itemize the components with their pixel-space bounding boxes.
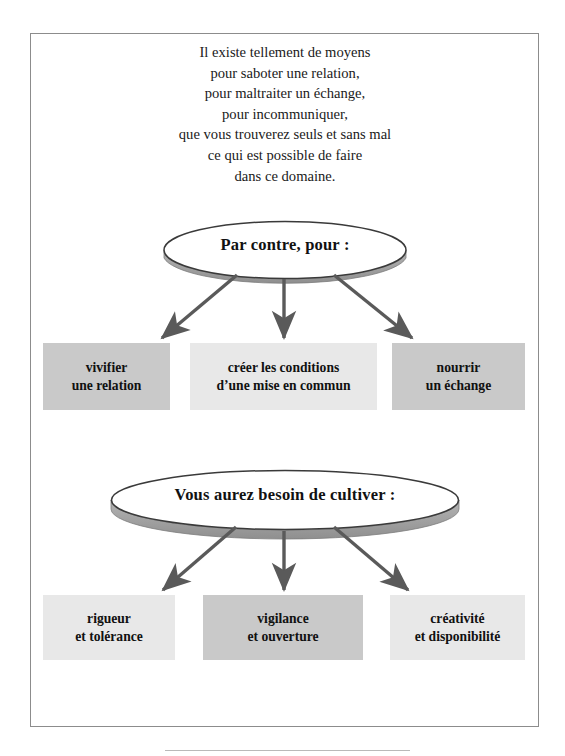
box-nourrir-un-echange: nourrir un échange xyxy=(392,343,525,410)
box-creativite-et-disponibilite: créativité et disponibilité xyxy=(390,595,525,660)
ellipse-2-label: Vous aurez besoin de cultiver : xyxy=(110,485,460,505)
intro-paragraph: Il existe tellement de moyens pour sabot… xyxy=(60,42,510,186)
box-rigueur-et-tolerance: rigueur et tolérance xyxy=(43,595,175,660)
box-vigilance-et-ouverture: vigilance et ouverture xyxy=(203,595,363,660)
diagram-page: Il existe tellement de moyens pour sabot… xyxy=(0,0,565,756)
bottom-rule xyxy=(165,750,410,751)
box-vivifier-une-relation: vivifier une relation xyxy=(43,343,170,410)
box-creer-les-conditions: créer les conditions d’une mise en commu… xyxy=(190,343,377,410)
ellipse-1-label: Par contre, pour : xyxy=(163,235,407,255)
